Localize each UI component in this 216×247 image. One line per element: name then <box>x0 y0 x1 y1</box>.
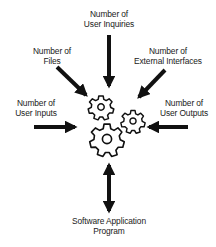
label-software-application-program: Software Application Program <box>72 216 146 236</box>
label-line: Number of <box>134 46 202 56</box>
small-gear-icon <box>88 96 114 120</box>
medium-gear-icon <box>121 111 145 134</box>
arrow-external-interfaces <box>139 70 165 97</box>
large-gear-icon <box>90 124 125 156</box>
label-line: User Outputs <box>160 108 208 118</box>
gears-icon <box>88 96 145 156</box>
label-user-inputs: Number of User Inputs <box>15 98 57 118</box>
diagram-art <box>0 0 216 247</box>
label-line: User Inquiries <box>84 19 134 29</box>
label-files: Number of Files <box>33 46 71 66</box>
label-line: Number of <box>15 98 57 108</box>
label-line: External Interfaces <box>134 56 202 66</box>
label-line: Software Application <box>72 216 146 226</box>
label-user-inquiries: Number of User Inquiries <box>84 9 134 29</box>
label-line: Number of <box>84 9 134 19</box>
label-line: Number of <box>160 98 208 108</box>
diagram-canvas: Number of User Inquiries Number of Files… <box>0 0 216 247</box>
label-external-interfaces: Number of External Interfaces <box>134 46 202 66</box>
label-line: User Inputs <box>15 108 57 118</box>
label-line: Program <box>72 226 146 236</box>
arrow-files <box>57 67 86 95</box>
label-line: Number of <box>33 46 71 56</box>
label-user-outputs: Number of User Outputs <box>160 98 208 118</box>
label-line: Files <box>33 56 71 66</box>
